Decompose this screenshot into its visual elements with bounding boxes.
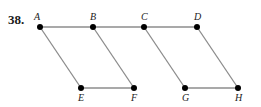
- point-d: [194, 24, 200, 30]
- point-h: [235, 85, 241, 91]
- point-b: [90, 24, 96, 30]
- segment-bf: [93, 27, 134, 88]
- point-label-e: E: [77, 92, 84, 103]
- point-e: [78, 85, 84, 91]
- point-label-g: G: [182, 92, 189, 103]
- point-label-a: A: [33, 11, 41, 22]
- parallelogram-diagram: ABCDEFGH: [0, 0, 261, 107]
- point-label-c: C: [141, 11, 148, 22]
- segments-group: [40, 27, 238, 88]
- point-label-d: D: [193, 11, 202, 22]
- point-label-b: B: [90, 11, 96, 22]
- point-f: [131, 85, 137, 91]
- point-label-f: F: [130, 92, 138, 103]
- point-g: [182, 85, 188, 91]
- segment-ae: [40, 27, 81, 88]
- segment-cg: [144, 27, 185, 88]
- point-a: [37, 24, 43, 30]
- segment-dh: [197, 27, 238, 88]
- point-c: [141, 24, 147, 30]
- point-label-h: H: [234, 92, 243, 103]
- points-group: [37, 24, 241, 91]
- labels-group: ABCDEFGH: [33, 11, 243, 103]
